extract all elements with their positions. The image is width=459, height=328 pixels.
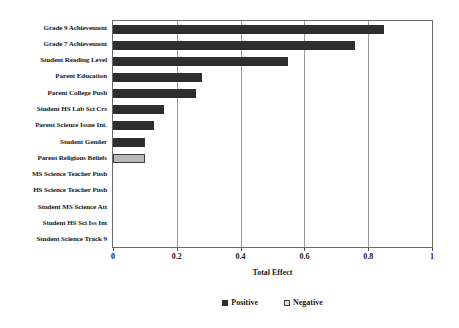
category-label: Student Science Track 9	[6, 235, 110, 244]
bar	[113, 25, 384, 34]
bar-row	[113, 150, 432, 166]
bar	[113, 138, 145, 147]
x-tick-mark	[368, 248, 369, 251]
bar-row	[113, 166, 432, 182]
bar-row	[113, 69, 432, 85]
bar	[113, 73, 202, 82]
category-label: MS Science Teacher Push	[6, 170, 110, 179]
bar	[113, 41, 355, 50]
plot-area	[112, 20, 433, 248]
bar-row	[113, 215, 432, 231]
bar	[113, 121, 154, 130]
x-tick-mark	[241, 248, 242, 251]
bar-row	[113, 134, 432, 150]
bar-row	[113, 118, 432, 134]
x-tick-mark	[432, 248, 433, 251]
category-axis: Grade 9 Achievement Grade 7 Achievement …	[6, 20, 110, 248]
bars-container	[113, 21, 432, 247]
x-axis: 00.20.40.60.81	[112, 248, 433, 266]
bar	[113, 154, 145, 163]
category-label: Student Reading Level	[6, 56, 110, 65]
legend: Positive Negative	[112, 298, 433, 307]
category-label: Student MS Science Att	[6, 203, 110, 212]
x-tick-mark	[304, 248, 305, 251]
x-tick-label: 0.4	[236, 252, 246, 261]
x-tick-label: 0.6	[299, 252, 309, 261]
x-tick-mark	[113, 248, 114, 251]
bar-row	[113, 102, 432, 118]
category-label: Grade 7 Achievement	[6, 40, 110, 49]
x-tick-mark	[177, 248, 178, 251]
legend-label: Positive	[231, 298, 258, 307]
category-label: Parent Science Issue Int.	[6, 121, 110, 130]
category-label: Grade 9 Achievement	[6, 24, 110, 33]
category-label: Parent Religious Beliefs	[6, 154, 110, 163]
legend-item-positive: Positive	[222, 298, 258, 307]
x-axis-title: Total Effect	[112, 268, 433, 277]
bar-row	[113, 53, 432, 69]
bar-row	[113, 231, 432, 247]
category-label: Student Gender	[6, 138, 110, 147]
x-tick-label: 0	[111, 252, 115, 261]
bar	[113, 89, 196, 98]
bar-row	[113, 86, 432, 102]
legend-swatch-negative-icon	[284, 300, 290, 306]
legend-swatch-positive-icon	[222, 300, 228, 306]
bar-row	[113, 37, 432, 53]
x-tick-label: 0.8	[363, 252, 373, 261]
bar	[113, 105, 164, 114]
bar-row	[113, 182, 432, 198]
legend-item-negative: Negative	[284, 298, 323, 307]
category-label: Student HS Lab Sci Crs	[6, 105, 110, 114]
category-label: Parent College Push	[6, 89, 110, 98]
x-tick-label: 0.2	[172, 252, 182, 261]
category-label: Parent Education	[6, 72, 110, 81]
bar-row	[113, 199, 432, 215]
bar-row	[113, 21, 432, 37]
x-tick-label: 1	[430, 252, 434, 261]
bar	[113, 57, 288, 66]
category-label: HS Science Teacher Push	[6, 186, 110, 195]
category-label: Student HS Sci Iss Int	[6, 219, 110, 228]
bar-chart: Grade 9 Achievement Grade 7 Achievement …	[0, 0, 459, 328]
legend-label: Negative	[293, 298, 323, 307]
